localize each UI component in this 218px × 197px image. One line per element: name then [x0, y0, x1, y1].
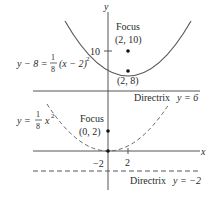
vertex-point-upper [126, 69, 130, 73]
lower-parabola-equation: y = 1 8 x 2 [16, 110, 55, 131]
directrix-eq-upper: y = 6 [176, 92, 198, 103]
lower-eq-lhs: y = [16, 115, 31, 126]
lower-eq-exponent: 2 [51, 112, 55, 120]
directrix-label-lower: Directrix [130, 175, 166, 186]
upper-parabola-equation: y − 8 = 1 8 (x − 2) 2 [16, 53, 90, 74]
upper-eq-frac-num: 1 [51, 53, 55, 62]
directrix-eq-lower: y = −2 [172, 175, 201, 186]
y-tick-label-10: 10 [90, 46, 100, 57]
vertex-point-lower [106, 149, 110, 153]
lower-eq-frac-den: 8 [36, 122, 40, 131]
vertex-coords-upper: (2, 8) [117, 75, 139, 87]
upper-eq-rhs: (x − 2) [59, 58, 88, 70]
upper-eq-exponent: 2 [86, 55, 90, 63]
diagram-canvas: y x 10 2 −2 Focus (2, 10) (2, 8) y − 8 =… [0, 0, 218, 197]
lower-eq-frac-num: 1 [36, 110, 40, 119]
y-tick-label-neg2: −2 [93, 158, 104, 169]
focus-label-lower: Focus [80, 113, 104, 124]
focus-point-upper [126, 49, 130, 53]
upper-eq-frac-den: 8 [51, 65, 55, 74]
focus-point-lower [106, 129, 110, 133]
parabola-diagram: y x 10 2 −2 Focus (2, 10) (2, 8) y − 8 =… [0, 0, 218, 197]
focus-coords-upper: (2, 10) [115, 34, 142, 46]
focus-label-upper: Focus [116, 21, 140, 32]
directrix-label-upper: Directrix [134, 92, 170, 103]
upper-eq-lhs: y − 8 = [16, 58, 47, 69]
x-axis-label: x [200, 146, 206, 157]
focus-coords-lower: (0, 2) [79, 126, 101, 138]
lower-eq-rhs: x [44, 115, 50, 126]
y-axis-label: y [103, 1, 109, 12]
x-tick-label-2: 2 [125, 157, 130, 168]
